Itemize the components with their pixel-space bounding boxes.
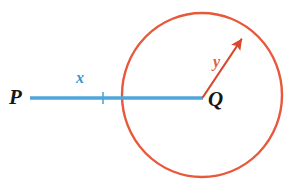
segment-length-label-x: x: [76, 70, 84, 86]
figure-canvas: [0, 0, 298, 185]
point-label-q: Q: [208, 89, 223, 110]
geometry-figure: P Q x y: [0, 0, 298, 185]
point-label-p: P: [9, 87, 22, 108]
circle-at-q: [122, 13, 282, 177]
radius-length-label-y: y: [213, 54, 220, 70]
